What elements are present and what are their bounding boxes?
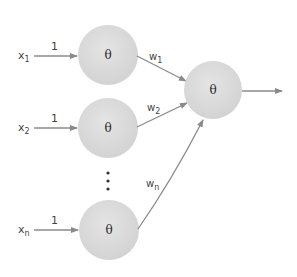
- weighted-edge-1: w1: [137, 51, 186, 81]
- input-label-x1: x1: [18, 49, 30, 64]
- theta-label: θ: [105, 223, 112, 237]
- weight-label-w2: w2: [147, 102, 160, 116]
- input-label-x2: x2: [18, 121, 30, 136]
- theta-label: θ: [209, 83, 216, 97]
- edge-wn: [138, 120, 203, 229]
- input-row-1: x1 1: [18, 40, 77, 64]
- vertical-ellipsis: [106, 171, 109, 190]
- weight-label-wn: wn: [146, 178, 159, 192]
- perceptron-diagram: x1 1 x2 1 xn 1 θ θ θ: [0, 0, 297, 277]
- theta-label: θ: [104, 121, 111, 135]
- hidden-node-2: θ: [78, 98, 138, 158]
- output-node: θ: [184, 61, 242, 119]
- weighted-edge-n: wn: [138, 120, 203, 229]
- hidden-node-1: θ: [78, 25, 138, 85]
- input-row-2: x2 1: [18, 112, 77, 136]
- input-edge-label-n: 1: [51, 214, 58, 227]
- edge-w2: [137, 103, 187, 127]
- hidden-node-n: θ: [79, 200, 139, 260]
- weighted-edge-2: w2: [137, 102, 187, 127]
- input-edge-label-1: 1: [51, 40, 58, 53]
- input-label-xn: xn: [18, 223, 30, 238]
- input-edge-label-2: 1: [51, 112, 58, 125]
- input-row-n: xn 1: [18, 214, 78, 238]
- theta-label: θ: [104, 48, 111, 62]
